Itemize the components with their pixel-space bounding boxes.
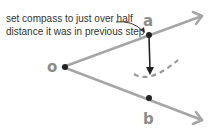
compass-arc [134, 60, 178, 77]
point-o [62, 64, 68, 70]
label-b: b [143, 110, 154, 128]
compass-direction-arrow [149, 36, 150, 70]
point-a [146, 32, 152, 38]
point-b [146, 95, 152, 101]
label-a: a [143, 12, 153, 30]
annotation-line-1: set compass to just over half [6, 13, 133, 24]
label-o: o [47, 58, 57, 76]
bisector-diagram: o a b set compass to just over half dist… [0, 0, 210, 132]
annotation-line-2: distance it was in previous step [6, 26, 145, 37]
arrow-down-icon [146, 67, 154, 75]
ray-ob [63, 67, 202, 120]
